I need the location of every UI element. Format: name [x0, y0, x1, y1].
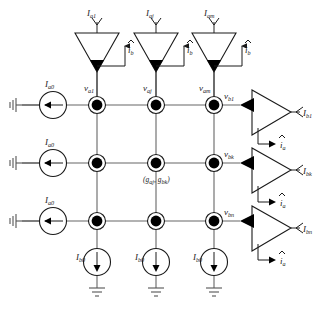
right-output-label-3: Ibn	[302, 224, 312, 235]
bottom-source-label-1: Ib0	[75, 252, 86, 263]
node-dot-1-1	[92, 100, 103, 111]
node-dot-3-2	[151, 216, 162, 227]
ground-symbol-bottom-3	[206, 288, 222, 296]
right-amplifier-2[interactable]	[240, 148, 303, 206]
bottom-source-label-2: Ib0	[134, 252, 145, 263]
hat-accent-top-2	[187, 40, 193, 43]
hat-accent-top-1	[128, 40, 134, 43]
hat-accent-right-3	[279, 251, 285, 254]
svg-text:ib: ib	[245, 45, 251, 56]
right-feedback-label-2: ia	[279, 193, 286, 209]
left-source-label-1: Ia0	[44, 79, 55, 90]
left-current-sources[interactable]	[40, 92, 67, 235]
node-dot-3-3	[209, 216, 220, 227]
right-output-label-2: Ibk	[302, 166, 312, 177]
left-source-label-2: Ia0	[44, 137, 55, 148]
top-output-label-1: ib	[128, 40, 134, 56]
bottom-source-label-3: Ib0	[192, 252, 203, 263]
ground-symbol-bottom-1	[89, 288, 105, 296]
right-output-label-1: Ib1	[302, 108, 312, 119]
node-dot-1-2	[151, 100, 162, 111]
right-feedback-label-3: ia	[279, 251, 286, 267]
hat-accent-right-1	[279, 135, 285, 138]
svg-text:ib: ib	[187, 45, 193, 56]
top-input-label-2: Iaj	[145, 8, 154, 19]
top-amplifier-1[interactable]	[75, 22, 119, 96]
svg-text:ia: ia	[280, 256, 286, 267]
conductance-annotation: (gaj, gbk)	[143, 175, 170, 185]
top-input-label-3: Iam	[203, 8, 215, 19]
right-amp-tip-3	[240, 214, 254, 228]
right-feedback-arrowhead-1	[269, 141, 276, 148]
column-voltage-label-1: va1	[84, 83, 94, 94]
ground-symbol-left-2	[10, 156, 39, 170]
row-voltage-label-1: vb1	[224, 91, 234, 102]
ground-symbol-bottom-2	[148, 288, 164, 296]
node-dot-2-3	[209, 158, 220, 169]
right-feedback-label-1: ia	[279, 135, 286, 151]
top-output-label-3: ib	[245, 40, 251, 56]
node-dot-1-3	[209, 100, 220, 111]
row-voltage-label-2: vbk	[224, 149, 234, 160]
svg-text:ia: ia	[280, 140, 286, 151]
right-amplifier-1[interactable]	[240, 90, 303, 148]
column-voltage-label-2: vaj	[143, 83, 152, 94]
right-amp-tip-1	[240, 98, 254, 112]
svg-text:ia: ia	[280, 198, 286, 209]
right-feedback-arrowhead-2	[269, 199, 276, 206]
top-input-label-1: Ia1	[86, 8, 96, 19]
circuit-schematic: Ia1 Iaj Iam ib ib ib va	[0, 0, 313, 311]
top-output-label-2: ib	[187, 40, 193, 56]
svg-text:ib: ib	[128, 45, 134, 56]
column-voltage-label-3: vam	[199, 83, 211, 94]
node-dot-2-2	[151, 158, 162, 169]
top-amplifier-2[interactable]	[134, 22, 178, 96]
right-feedback-arrowhead-3	[269, 257, 276, 264]
top-input-arrows	[92, 18, 219, 25]
bottom-current-sources[interactable]	[84, 249, 228, 297]
left-grounds	[10, 98, 39, 228]
hat-accent-top-3	[245, 40, 251, 43]
left-source-label-3: Ia0	[44, 195, 55, 206]
ground-symbol-left-1	[10, 98, 39, 112]
node-dot-3-1	[92, 216, 103, 227]
row-voltage-label-3: vbn	[224, 207, 234, 218]
right-amp-tip-2	[240, 156, 254, 170]
right-amplifier-3[interactable]	[240, 206, 303, 264]
ground-symbol-left-3	[10, 214, 39, 228]
node-dot-2-1	[92, 158, 103, 169]
hat-accent-right-2	[279, 193, 285, 196]
circuit-diagram-canvas: Ia1 Iaj Iam ib ib ib va	[0, 0, 313, 311]
